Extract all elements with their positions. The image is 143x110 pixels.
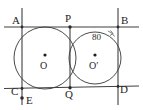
center-o-dot (43, 53, 46, 56)
label-point-d: D (120, 84, 128, 95)
geometry-figure: A P B C Q D E O O′ 80 (0, 0, 143, 110)
label-point-p: P (65, 13, 71, 24)
label-center-o-prime: O′ (89, 61, 98, 71)
label-point-e: E (26, 95, 33, 106)
angle-value: 80 (92, 32, 101, 42)
circle-o (14, 27, 76, 89)
prime-mark-icon: ′ (96, 60, 98, 71)
point-b-dot (117, 26, 120, 29)
label-point-c: C (11, 86, 18, 97)
label-angle-80: 80 (92, 33, 101, 42)
point-c-dot (21, 87, 24, 90)
label-point-b: B (121, 15, 128, 26)
point-a-dot (21, 26, 24, 29)
point-d-dot (117, 85, 120, 88)
point-e-marker-dot (20, 96, 24, 100)
point-p-dot (68, 25, 71, 28)
label-point-q: Q (65, 89, 73, 100)
label-center-o: O (40, 61, 47, 71)
center-o-prime-dot (93, 53, 96, 56)
label-point-a: A (12, 15, 20, 26)
